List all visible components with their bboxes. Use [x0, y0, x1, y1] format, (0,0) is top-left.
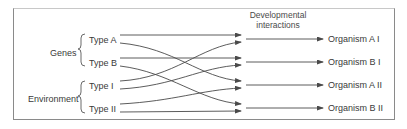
braces: [78, 34, 85, 113]
environment-brace-icon: [78, 81, 85, 113]
line-type-ii-to-b-ii: [120, 111, 241, 112]
line-type-ii-to-a-ii: [120, 88, 241, 104]
line-type-i-to-a-i: [120, 42, 241, 81]
genes-brace-icon: [78, 34, 85, 66]
connection-lines: [0, 0, 407, 129]
line-type-a-to-a-ii: [120, 43, 241, 81]
line-type-b-to-b-ii: [120, 66, 241, 104]
line-type-i-to-b-i: [120, 65, 241, 89]
output-arrows: [246, 39, 323, 108]
